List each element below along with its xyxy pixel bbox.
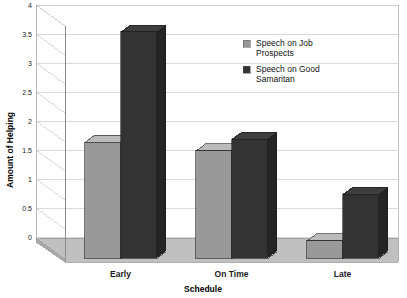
y-tick-label: 0 (28, 234, 32, 241)
bar-front-face (85, 142, 121, 258)
bar-late-s1 (343, 187, 388, 258)
bar-side-face (157, 25, 166, 258)
legend-label-line2: Samaritan (256, 74, 295, 84)
legend-label-line2: Prospects (256, 48, 294, 58)
y-tick-label: 2 (28, 118, 32, 125)
x-tick-label: On Time (215, 269, 249, 279)
y-tick-label: 0.5 (22, 205, 32, 212)
y-tick-label: 1 (28, 176, 32, 183)
chart-canvas: 00.511.522.533.54 EarlyOn TimeLate Sched… (0, 0, 407, 298)
bar-side-face (379, 187, 388, 258)
legend-label-line1: Speech on Good (256, 64, 320, 74)
legend-label-line1: Speech on Job (256, 38, 313, 48)
y-tick-label: 3.5 (22, 31, 32, 38)
x-tick-label: Early (110, 269, 131, 279)
bar-front-face (343, 194, 379, 258)
legend-swatch (243, 40, 250, 47)
bar-on-time-s1 (232, 132, 277, 258)
y-axis-title: Amount of Helping (5, 112, 15, 188)
bar-front-face (232, 139, 268, 258)
bar-chart: 00.511.522.533.54 EarlyOn TimeLate Sched… (0, 0, 407, 298)
x-axis-title: Schedule (184, 284, 222, 294)
bar-front-face (121, 32, 157, 258)
y-tick-label: 3 (28, 60, 32, 67)
y-tick-label: 4 (28, 2, 32, 9)
bar-front-face (196, 151, 232, 258)
bar-early-s1 (121, 25, 166, 258)
y-tick-label: 1.5 (22, 147, 32, 154)
y-tick-label: 2.5 (22, 89, 32, 96)
x-tick-label: Late (334, 269, 352, 279)
bar-side-face (268, 132, 277, 258)
bar-front-face (307, 241, 343, 258)
legend-swatch (243, 66, 250, 73)
